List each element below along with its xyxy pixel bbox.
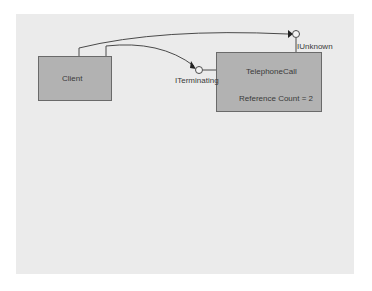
object-client[interactable]: Client — [38, 56, 112, 101]
interface-iunknown-icon[interactable] — [293, 31, 300, 38]
object-telephonecall-label: TelephoneCall — [246, 67, 297, 76]
interface-iterminating-label: ITerminating — [175, 76, 219, 85]
object-telephonecall[interactable]: TelephoneCall Reference Count = 2 — [216, 52, 322, 112]
reference-count-label: Reference Count = 2 — [239, 94, 313, 103]
arrowhead-icon — [190, 61, 196, 69]
interface-iunknown-label: IUnknown — [297, 42, 333, 51]
interface-iterminating-icon[interactable] — [196, 67, 203, 74]
object-client-label: Client — [62, 74, 82, 83]
connection-client-iterminating — [106, 45, 194, 66]
